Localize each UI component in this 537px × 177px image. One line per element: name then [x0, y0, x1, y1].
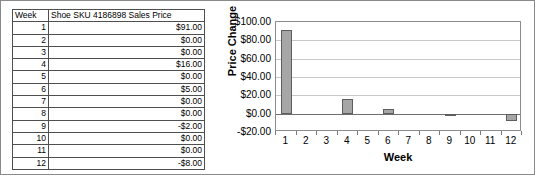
table-row: 5$0.00 [13, 71, 205, 83]
table-row: 7$0.00 [13, 96, 205, 108]
y-tick-label: $100.00 [209, 16, 271, 27]
cell-week: 3 [13, 46, 49, 58]
cell-week: 10 [13, 132, 49, 144]
cell-price: $0.00 [49, 96, 205, 108]
zero-axis-line [276, 114, 520, 115]
cell-week: 6 [13, 83, 49, 95]
sales-price-table: Week Shoe SKU 4186898 Sales Price 1$91.0… [12, 9, 205, 170]
table-header-row: Week Shoe SKU 4186898 Sales Price [13, 10, 205, 22]
y-tick-label: $20.00 [209, 89, 271, 100]
cell-price: -$2.00 [49, 120, 205, 132]
table-row: 12-$8.00 [13, 157, 205, 169]
cell-price: $0.00 [49, 108, 205, 120]
bar-week-1 [281, 30, 292, 113]
table-row: 3$0.00 [13, 46, 205, 58]
cell-price: $0.00 [49, 71, 205, 83]
y-tick-label: $40.00 [209, 71, 271, 82]
cell-price: $0.00 [49, 46, 205, 58]
table-row: 9-$2.00 [13, 120, 205, 132]
cell-week: 8 [13, 108, 49, 120]
cell-week: 7 [13, 96, 49, 108]
bar-week-12 [506, 114, 517, 121]
cell-week: 2 [13, 34, 49, 46]
table-row: 1$91.00 [13, 22, 205, 34]
cell-week: 12 [13, 157, 49, 169]
y-tick-label: $60.00 [209, 52, 271, 63]
figure-container: Week Shoe SKU 4186898 Sales Price 1$91.0… [0, 0, 535, 175]
y-axis-tick-labels: $100.00$80.00$60.00$40.00$20.00$0.00-$20… [209, 21, 271, 131]
bar-week-9 [445, 114, 456, 116]
table-row: 11$0.00 [13, 145, 205, 157]
sales-price-table-panel: Week Shoe SKU 4186898 Sales Price 1$91.0… [12, 9, 196, 170]
gridline [276, 59, 520, 60]
gridline [276, 40, 520, 41]
cell-price: $0.00 [49, 145, 205, 157]
plot-area [275, 21, 521, 131]
x-tick-label: 12 [499, 135, 523, 146]
cell-price: $91.00 [49, 22, 205, 34]
bar-week-4 [342, 99, 353, 114]
cell-price: $5.00 [49, 83, 205, 95]
price-change-chart: Price Change $100.00$80.00$60.00$40.00$2… [201, 7, 531, 171]
cell-week: 9 [13, 120, 49, 132]
cell-week: 5 [13, 71, 49, 83]
y-tick-label: $0.00 [209, 107, 271, 118]
cell-price: $0.00 [49, 34, 205, 46]
cell-price: $16.00 [49, 59, 205, 71]
cell-price: $0.00 [49, 132, 205, 144]
cell-week: 11 [13, 145, 49, 157]
table-body: 1$91.002$0.003$0.004$16.005$0.006$5.007$… [13, 22, 205, 170]
cell-week: 4 [13, 59, 49, 71]
bar-week-6 [383, 109, 394, 114]
column-header-week: Week [13, 10, 49, 22]
y-tick-label: $80.00 [209, 34, 271, 45]
gridline [276, 95, 520, 96]
table-row: 8$0.00 [13, 108, 205, 120]
table-row: 6$5.00 [13, 83, 205, 95]
gridline [276, 77, 520, 78]
cell-week: 1 [13, 22, 49, 34]
table-row: 4$16.00 [13, 59, 205, 71]
y-tick-label: -$20.00 [209, 126, 271, 137]
table-row: 2$0.00 [13, 34, 205, 46]
column-header-price: Shoe SKU 4186898 Sales Price [49, 10, 205, 22]
table-row: 10$0.00 [13, 132, 205, 144]
x-axis-title: Week [275, 151, 521, 163]
cell-price: -$8.00 [49, 157, 205, 169]
x-axis-tick-labels: 123456789101112 [275, 135, 521, 149]
